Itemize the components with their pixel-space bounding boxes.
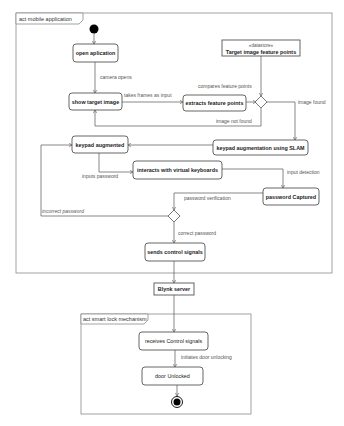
edge-correct-password-label: correct password <box>178 230 216 236</box>
decision-image-match <box>255 96 267 108</box>
action-keypad-augmented-label: keypad augmented <box>76 142 125 148</box>
action-open-application[interactable]: open aplication <box>73 44 118 62</box>
final-node <box>172 397 183 408</box>
edge-camera-opens-label: camera opens <box>100 74 132 80</box>
action-door-unlocked-label: door Unlocked <box>155 373 190 379</box>
edge-image-not-found-label: image not found <box>216 118 252 124</box>
edge-initiates-door-unlocking-label: initiates door unlocking <box>181 354 232 360</box>
edge-incorrect-password <box>41 145 168 216</box>
edge-input-detection-label: input detection <box>287 169 320 175</box>
edge-input-detection <box>222 169 283 188</box>
action-password-captured[interactable]: password Captured <box>263 188 319 205</box>
edge-image-found <box>267 102 295 140</box>
action-sends-control-signals[interactable]: sends control signals <box>145 243 205 261</box>
action-keypad-augmentation-slam[interactable]: keypad augmentation using SLAM <box>213 140 308 155</box>
action-open-application-label: open aplication <box>76 50 116 56</box>
blynk-server-label: Blynk server <box>158 286 191 292</box>
action-extracts-feature-points[interactable]: extracts feature points <box>183 95 246 111</box>
edge-takes-frames-label: takes frames as input <box>124 92 172 98</box>
action-keypad-augmented[interactable]: keypad augmented <box>72 136 128 153</box>
datastore-target-image-feature-points[interactable]: «datastore» Target image feature points <box>222 40 300 56</box>
edge-inputs-password-label: inputs password <box>82 173 118 179</box>
action-keypad-augmentation-slam-label: keypad augmentation using SLAM <box>216 145 305 151</box>
action-show-target-image-label: show target image <box>72 99 119 105</box>
edge-image-found-label: image found <box>298 99 326 105</box>
edge-incorrect-password-label: incorrect password <box>42 208 84 214</box>
action-receives-control-signals[interactable]: receives Control signals <box>139 332 208 350</box>
datastore-name: Target image feature points <box>226 49 296 55</box>
datastore-stereotype: «datastore» <box>249 43 274 48</box>
action-extracts-feature-points-label: extracts feature points <box>186 100 244 106</box>
decision-password-check <box>168 210 180 222</box>
initial-node <box>90 25 99 34</box>
action-sends-control-signals-label: sends control signals <box>147 249 202 255</box>
edge-password-verification-label: password verification <box>184 195 231 201</box>
frame-lock-label: act smart lock mechanism <box>83 316 147 322</box>
action-door-unlocked[interactable]: door Unlocked <box>142 367 203 385</box>
frame-mobile-label: act mobile application <box>19 16 72 22</box>
activity-diagram: act mobile application open aplication c… <box>0 0 344 426</box>
action-password-captured-label: password Captured <box>266 194 316 200</box>
action-interacts-virtual-keyboards[interactable]: interacts with virtual keyboards <box>133 161 222 179</box>
blynk-server[interactable]: Blynk server <box>154 283 194 295</box>
action-receives-control-signals-label: receives Control signals <box>145 338 203 344</box>
frame-smart-lock-mechanism: act smart lock mechanism <box>81 314 251 414</box>
edge-compares-feature-points-label: compares feature points <box>198 83 252 89</box>
action-interacts-virtual-keyboards-label: interacts with virtual keyboards <box>137 167 218 173</box>
action-show-target-image[interactable]: show target image <box>69 93 122 110</box>
edge-inputs-password <box>99 153 133 172</box>
